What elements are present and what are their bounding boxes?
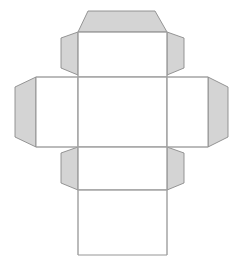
left-face: Left face <box>36 77 78 147</box>
back-upper-face: Back upper face <box>78 147 167 190</box>
upper-right-glue-flap: Upper right glue flap <box>167 32 184 75</box>
box-net-diagram: Top tuck flapUpper left glue flapUpper r… <box>0 0 238 267</box>
lower-left-glue-flap: Lower left glue flap <box>61 147 78 190</box>
far-right-glue-flap: Far right glue flap <box>208 77 228 147</box>
lower-right-glue-flap: Lower right glue flap <box>167 147 184 190</box>
upper-left-glue-flap: Upper left glue flap <box>61 32 78 75</box>
bottom-face: Bottom face <box>78 190 167 255</box>
right-face: Right face <box>167 77 208 147</box>
net-svg-canvas: Top tuck flapUpper left glue flapUpper r… <box>0 0 238 267</box>
far-left-glue-flap: Far left glue flap <box>15 77 36 147</box>
front-face: Front face <box>78 77 167 147</box>
top-tuck-flap: Top tuck flap <box>78 11 167 32</box>
top-face: Top face <box>78 32 167 77</box>
